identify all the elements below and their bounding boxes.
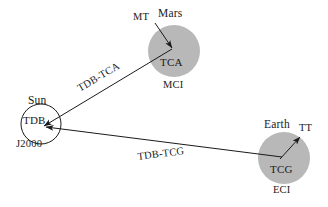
sun-timescale-label: TDB (23, 115, 46, 126)
earth-local-time-label: TT (299, 123, 312, 134)
mars-timescale-label: TCA (160, 57, 183, 68)
sun-body-label: Sun (28, 95, 47, 107)
earth-frame-label: ECI (273, 185, 291, 196)
mars-frame-label: MCI (163, 80, 183, 91)
sun-frame-label: J2000 (16, 139, 42, 150)
timescale-diagram: Sun TDB J2000 MT Mars TCA MCI Earth TT T… (0, 0, 328, 207)
mars-body-circle (148, 25, 200, 77)
earth-body-label: Earth (264, 119, 290, 131)
mars-body-label: Mars (158, 8, 182, 20)
earth-body-circle (258, 132, 310, 184)
earth-timescale-label: TCG (270, 164, 293, 175)
diagram-canvas (0, 0, 328, 207)
mars-local-time-label: MT (133, 12, 149, 23)
edge-line-tdb-tca (44, 49, 172, 126)
